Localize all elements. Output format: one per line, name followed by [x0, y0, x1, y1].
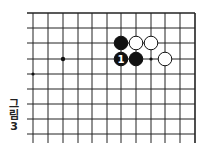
board-stones: 1: [114, 36, 172, 66]
white-stone: [144, 36, 158, 50]
black-stone: [129, 52, 143, 66]
black-stone: 1: [114, 52, 128, 66]
black-stone: [114, 36, 128, 50]
white-stone: [129, 36, 143, 50]
point-marker-icon: [31, 72, 34, 75]
stone-move-number: 1: [118, 54, 125, 65]
point-marker-icon: [149, 57, 152, 60]
caption-line-3: 3: [6, 121, 22, 132]
star-point-icon: [61, 57, 65, 61]
board-grid: [27, 13, 195, 143]
white-stone: [158, 52, 172, 66]
go-board-diagram: 1: [0, 0, 206, 154]
figure-caption: 그 림 3: [6, 99, 22, 132]
